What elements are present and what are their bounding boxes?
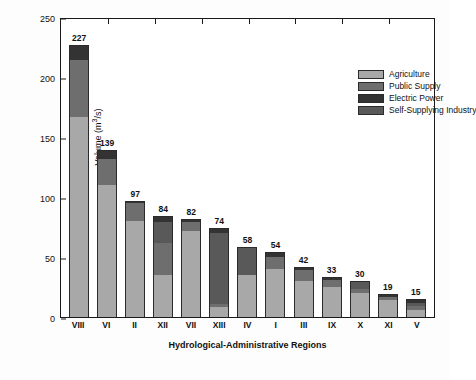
y-tick-label: 100	[40, 194, 61, 204]
bar-segment-self-supplying-industry	[350, 282, 370, 289]
bar-segment-public-supply	[153, 243, 173, 275]
x-tick-label-IX: IX	[322, 320, 342, 336]
x-tick-label-XII: XII	[153, 320, 173, 336]
y-tick-label: 250	[40, 14, 61, 24]
bar-value-label: 58	[243, 235, 252, 245]
bar-segment-electric-power	[97, 150, 117, 158]
bar-segment-agriculture	[153, 275, 173, 317]
bar-VI[interactable]: 139	[97, 150, 117, 317]
legend-label: Public Supply	[389, 81, 441, 91]
top-tick-mark	[295, 19, 296, 24]
bar-segment-agriculture	[69, 117, 89, 317]
bar-IX[interactable]: 33	[322, 277, 342, 317]
y-tick-mark	[61, 199, 66, 200]
bar-segment-self-supplying-industry	[237, 247, 257, 275]
top-tick-mark	[202, 19, 203, 24]
bar-value-label: 74	[215, 216, 224, 226]
bar-segment-public-supply	[97, 159, 117, 185]
legend-label: Electric Power	[389, 93, 443, 103]
top-tick-mark	[108, 19, 109, 24]
legend-label: Agriculture	[389, 69, 430, 79]
bar-III[interactable]: 42	[294, 267, 314, 317]
bar-value-label: 42	[299, 255, 308, 265]
x-axis-tick-labels: VIIIVIIIXIIVIIXIIIIVIIIIIXXXIV	[60, 320, 435, 336]
x-tick-label-XIII: XIII	[209, 320, 229, 336]
bar-value-label: 97	[130, 189, 139, 199]
x-tick-label-XI: XI	[379, 320, 399, 336]
bar-segment-agriculture	[378, 300, 398, 317]
bar-XI[interactable]: 19	[378, 294, 398, 317]
legend-swatch-icon	[358, 106, 384, 115]
bar-VII[interactable]: 82	[181, 219, 201, 317]
bar-segment-public-supply	[69, 60, 89, 116]
top-tick-mark	[155, 19, 156, 24]
legend-label: Self-Supplying Industry	[389, 105, 476, 115]
y-tick-label: 150	[40, 134, 61, 144]
bar-segment-agriculture	[350, 293, 370, 317]
x-tick-label-III: III	[294, 320, 314, 336]
top-tick-mark	[249, 19, 250, 24]
bar-segment-agriculture	[209, 307, 229, 317]
bar-IV[interactable]: 58	[237, 247, 257, 317]
top-tick-mark	[389, 19, 390, 24]
legend-item-agriculture[interactable]: Agriculture	[358, 69, 476, 79]
x-tick-label-VII: VII	[181, 320, 201, 336]
y-tick-label: 200	[40, 74, 61, 84]
bar-segment-self-supplying-industry	[153, 222, 173, 242]
legend-item-self-supplying-industry[interactable]: Self-Supplying Industry	[358, 105, 476, 115]
x-tick-label-VI: VI	[96, 320, 116, 336]
bar-segment-agriculture	[97, 185, 117, 317]
bar-value-label: 227	[72, 33, 86, 43]
bars-container: 2271399784827458544233301915	[61, 19, 434, 317]
y-tick-mark	[61, 139, 66, 140]
x-tick-label-II: II	[125, 320, 145, 336]
legend: AgriculturePublic SupplyElectric PowerSe…	[358, 69, 476, 115]
legend-swatch-icon	[358, 94, 384, 103]
x-tick-label-I: I	[266, 320, 286, 336]
bar-I[interactable]: 54	[265, 252, 285, 317]
x-tick-label-VIII: VIII	[68, 320, 88, 336]
bar-segment-agriculture	[294, 281, 314, 317]
x-tick-label-V: V	[407, 320, 427, 336]
y-tick-mark	[61, 19, 66, 20]
legend-item-electric-power[interactable]: Electric Power	[358, 93, 476, 103]
legend-item-public-supply[interactable]: Public Supply	[358, 81, 476, 91]
bar-segment-public-supply	[265, 257, 285, 269]
bar-value-label: 82	[187, 207, 196, 217]
plot-area: Volume (m3/s) 22713997848274585442333019…	[60, 18, 435, 318]
x-tick-label-X: X	[350, 320, 370, 336]
bar-value-label: 30	[355, 269, 364, 279]
bar-segment-self-supplying-industry	[209, 233, 229, 304]
bar-V[interactable]: 15	[406, 299, 426, 317]
bar-segment-agriculture	[322, 287, 342, 317]
bar-segment-public-supply	[181, 222, 201, 230]
y-tick-mark	[61, 259, 66, 260]
bar-XII[interactable]: 84	[153, 216, 173, 317]
x-tick-label-IV: IV	[237, 320, 257, 336]
y-tick-mark	[61, 79, 66, 80]
bar-II[interactable]: 97	[125, 201, 145, 317]
bar-value-label: 84	[158, 204, 167, 214]
bar-segment-agriculture	[406, 310, 426, 317]
bar-segment-public-supply	[294, 270, 314, 281]
top-tick-mark	[342, 19, 343, 24]
bar-value-label: 33	[327, 265, 336, 275]
x-axis-title: Hydrological-Administrative Regions	[60, 340, 435, 350]
legend-swatch-icon	[358, 82, 384, 91]
bar-XIII[interactable]: 74	[209, 228, 229, 317]
bar-value-label: 15	[411, 287, 420, 297]
bar-X[interactable]: 30	[350, 281, 370, 317]
bar-segment-public-supply	[125, 203, 145, 221]
bar-value-label: 139	[100, 138, 114, 148]
bar-segment-agriculture	[181, 231, 201, 317]
y-tick-label: 50	[45, 254, 61, 264]
bar-VIII[interactable]: 227	[69, 45, 89, 317]
bar-value-label: 19	[383, 282, 392, 292]
legend-swatch-icon	[358, 70, 384, 79]
bar-segment-agriculture	[265, 269, 285, 317]
bar-segment-public-supply	[322, 280, 342, 287]
bar-segment-agriculture	[237, 275, 257, 317]
bar-value-label: 54	[271, 240, 280, 250]
bar-segment-agriculture	[125, 221, 145, 317]
